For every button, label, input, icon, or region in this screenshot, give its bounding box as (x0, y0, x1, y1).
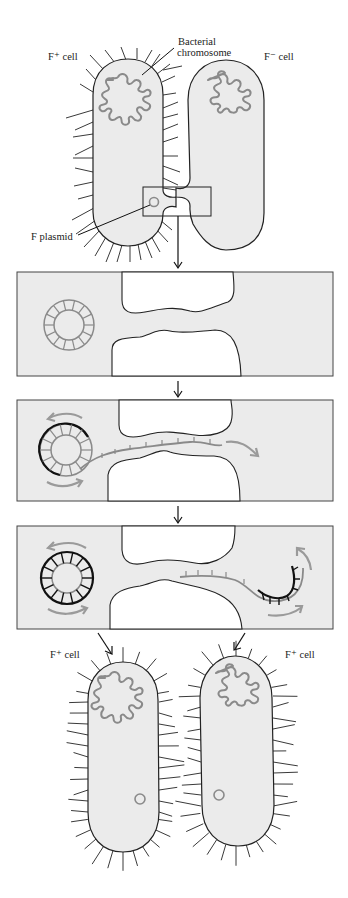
bridge-gap-top (119, 400, 232, 437)
pilus (68, 723, 88, 724)
pilus (159, 812, 172, 816)
pilus (159, 787, 177, 790)
pilus (71, 819, 88, 821)
pilus (179, 696, 201, 697)
pilus (159, 757, 184, 762)
pilus (183, 793, 201, 795)
pilus (219, 644, 224, 658)
pilus (188, 758, 201, 762)
daughter-cells-group: F⁺ cell F⁺ cell (50, 641, 315, 871)
pilus (71, 811, 88, 812)
panel-stage-3 (17, 526, 333, 629)
chromosome-label-line1: Bacterial (178, 36, 216, 47)
donor-cell-label: F⁺ cell (48, 51, 78, 62)
down-arrow-1 (174, 216, 182, 268)
pilus (67, 743, 88, 746)
f-plasmid-label: F plasmid (31, 231, 73, 242)
pilus (221, 844, 226, 860)
pilus (159, 732, 178, 735)
pilus (158, 819, 172, 821)
pilus (67, 731, 88, 735)
pilus (159, 765, 184, 768)
pilus (69, 702, 88, 703)
pilus (74, 767, 88, 768)
left-daughter-cell (88, 662, 159, 852)
pilus (158, 691, 169, 693)
pilus (184, 738, 201, 740)
pilus (188, 685, 200, 687)
pilus (76, 691, 88, 693)
down-arrow-2 (174, 381, 182, 397)
pilus (181, 813, 201, 816)
pilus (175, 801, 201, 806)
donor-cell (93, 59, 176, 246)
arrow-to-left-daughter (98, 633, 112, 654)
pilus (186, 824, 203, 832)
pilus (154, 673, 167, 681)
pilus (273, 725, 295, 729)
pilus (146, 659, 156, 671)
pilus (107, 653, 111, 664)
recipient-cell (176, 60, 264, 250)
pilus (74, 790, 88, 795)
pilus (135, 652, 140, 664)
pilus (187, 707, 201, 711)
down-arrow-3 (174, 506, 182, 523)
pilus (159, 724, 175, 727)
pilus (70, 779, 88, 780)
pilus (273, 762, 298, 766)
pilus (68, 799, 88, 801)
pilus (159, 699, 173, 702)
pilus (76, 830, 91, 837)
pilus (193, 668, 204, 675)
right-daughter-cell (200, 656, 274, 846)
pilus (133, 850, 138, 865)
pilus (74, 753, 88, 757)
top-cells-group: F⁺ cell Bacterial chromosome F⁻ cell F p… (31, 36, 294, 268)
pilus (202, 652, 213, 665)
pilus (273, 703, 289, 707)
chromosome-label-line2: chromosome (177, 47, 232, 58)
pilus (273, 718, 296, 722)
chromosome-leader-line (142, 48, 174, 75)
panel-stage-2 (17, 400, 333, 501)
pilus (92, 846, 104, 864)
conjugation-diagram: F⁺ cell Bacterial chromosome F⁻ cell F p… (0, 0, 348, 898)
pilus (91, 660, 100, 671)
pilus (246, 844, 250, 857)
pilus (267, 670, 276, 675)
pilus (273, 772, 298, 773)
left-daughter-label: F⁺ cell (50, 649, 80, 660)
pilus (77, 672, 92, 681)
pilus (155, 830, 170, 837)
pilus (188, 747, 201, 751)
pilus (259, 656, 267, 665)
panel-stage-1 (17, 272, 333, 376)
pilus (159, 777, 180, 779)
pilus (273, 795, 288, 797)
pilus (183, 773, 201, 776)
pilus (207, 840, 216, 855)
pilus (193, 833, 209, 847)
bridge-gap-top (122, 526, 235, 564)
pilus (248, 649, 251, 658)
recipient-cell-label: F⁻ cell (264, 51, 294, 62)
pilus (142, 846, 149, 856)
pilus (85, 839, 97, 849)
pilus (271, 685, 287, 688)
pilus (159, 713, 172, 717)
pilus (150, 839, 160, 847)
pilus (272, 813, 290, 816)
pilus (108, 850, 113, 868)
right-daughter-label: F⁺ cell (285, 649, 315, 660)
pilus (182, 784, 201, 785)
pilus (159, 801, 173, 804)
pilus (183, 716, 201, 718)
pilus (188, 729, 201, 731)
pilus (273, 801, 297, 806)
pilus (273, 740, 293, 745)
